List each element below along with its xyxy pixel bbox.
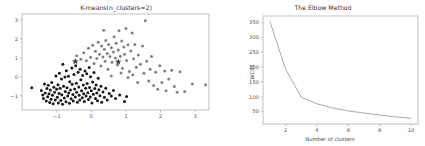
scatter-point bbox=[89, 75, 92, 78]
scatter-point bbox=[62, 85, 65, 88]
scatter-series-1 bbox=[75, 19, 207, 93]
scatter-point bbox=[79, 68, 82, 71]
elbow-y-tick-label: 250 bbox=[249, 49, 259, 55]
scatter-point bbox=[57, 101, 60, 104]
scatter-point bbox=[102, 55, 105, 58]
scatter-point bbox=[88, 66, 91, 69]
scatter-point bbox=[94, 97, 97, 100]
scatter-point bbox=[158, 64, 161, 67]
scatter-point bbox=[103, 48, 106, 51]
scatter-point bbox=[86, 91, 89, 94]
scatter-point bbox=[204, 83, 207, 86]
scatter-point bbox=[97, 88, 100, 91]
scatter-point bbox=[71, 83, 74, 86]
scatter-y-tick-label: −1 bbox=[10, 93, 18, 99]
scatter-point bbox=[136, 81, 139, 84]
scatter-point bbox=[86, 82, 89, 85]
scatter-point bbox=[100, 101, 103, 104]
scatter-x-tick-label: 2 bbox=[159, 113, 162, 119]
elbow-x-tick-label: 2 bbox=[284, 127, 287, 133]
scatter-point bbox=[112, 51, 115, 54]
scatter-point bbox=[142, 72, 145, 75]
scatter-point bbox=[75, 54, 78, 57]
scatter-plot-title: K-means(n_clusters=2) bbox=[80, 4, 152, 12]
scatter-point bbox=[123, 100, 126, 103]
scatter-point bbox=[112, 89, 115, 92]
scatter-point bbox=[104, 39, 107, 42]
scatter-point bbox=[72, 100, 75, 103]
scatter-point bbox=[57, 83, 60, 86]
scatter-point bbox=[45, 100, 48, 103]
scatter-point bbox=[58, 72, 61, 75]
scatter-point bbox=[30, 86, 33, 89]
scatter-point bbox=[59, 99, 62, 102]
elbow-x-tick-label: 8 bbox=[378, 127, 381, 133]
scatter-point bbox=[160, 81, 163, 84]
scatter-point bbox=[68, 80, 71, 83]
scatter-point bbox=[178, 70, 181, 73]
scatter-point bbox=[91, 44, 94, 47]
scatter-point bbox=[129, 49, 132, 52]
scatter-point bbox=[70, 66, 73, 69]
scatter-point bbox=[113, 35, 116, 38]
elbow-axes: 24681050100150200250300350 bbox=[249, 16, 418, 133]
scatter-x-tick-label: 1 bbox=[124, 113, 127, 119]
scatter-point bbox=[82, 51, 85, 54]
scatter-point bbox=[98, 53, 101, 56]
scatter-point bbox=[150, 55, 153, 58]
scatter-point bbox=[97, 77, 100, 80]
scatter-point bbox=[66, 86, 69, 89]
scatter-point bbox=[89, 95, 92, 98]
scatter-point bbox=[125, 95, 128, 98]
scatter-point bbox=[102, 90, 105, 93]
scatter-point bbox=[64, 100, 67, 103]
scatter-point bbox=[82, 92, 85, 95]
scatter-y-tick-label: 0 bbox=[15, 74, 18, 80]
scatter-point bbox=[79, 58, 82, 61]
scatter-point bbox=[74, 64, 77, 67]
scatter-point bbox=[119, 55, 122, 58]
scatter-point bbox=[183, 90, 186, 93]
scatter-point bbox=[110, 74, 113, 77]
scatter-point bbox=[60, 93, 63, 96]
scatter-point bbox=[126, 76, 129, 79]
scatter-point bbox=[93, 87, 96, 90]
scatter-point bbox=[87, 98, 90, 101]
scatter-point bbox=[133, 43, 136, 46]
scatter-point bbox=[145, 60, 148, 63]
scatter-point bbox=[114, 57, 117, 60]
scatter-point bbox=[88, 86, 91, 89]
scatter-point bbox=[81, 96, 84, 99]
scatter-point bbox=[98, 94, 101, 97]
scatter-point bbox=[50, 81, 53, 84]
scatter-point bbox=[121, 67, 124, 70]
scatter-point bbox=[49, 89, 52, 92]
scatter-point bbox=[126, 43, 129, 46]
scatter-series-0 bbox=[30, 63, 128, 106]
scatter-point bbox=[144, 19, 147, 22]
scatter-y-tick-label: 3 bbox=[15, 17, 18, 23]
scatter-point bbox=[78, 94, 81, 97]
scatter-point bbox=[70, 97, 73, 100]
scatter-point bbox=[111, 61, 114, 64]
scatter-point bbox=[110, 95, 113, 98]
scatter-point bbox=[128, 70, 131, 73]
scatter-point bbox=[68, 102, 71, 105]
scatter-point bbox=[61, 63, 64, 66]
scatter-point bbox=[95, 92, 98, 95]
scatter-point bbox=[82, 84, 85, 87]
scatter-point bbox=[92, 93, 95, 96]
scatter-point bbox=[83, 100, 86, 103]
scatter-x-tick-label: −1 bbox=[53, 113, 61, 119]
scatter-plot-frame bbox=[22, 14, 209, 110]
scatter-point bbox=[90, 89, 93, 92]
scatter-point bbox=[43, 82, 46, 85]
scatter-point bbox=[106, 52, 109, 55]
scatter-x-tick-label: 0 bbox=[90, 113, 93, 119]
scatter-point bbox=[72, 73, 75, 76]
scatter-point bbox=[45, 87, 48, 90]
scatter-point bbox=[85, 95, 88, 98]
scatter-point bbox=[84, 87, 87, 90]
scatter-point bbox=[104, 60, 107, 63]
scatter-point bbox=[114, 97, 117, 100]
